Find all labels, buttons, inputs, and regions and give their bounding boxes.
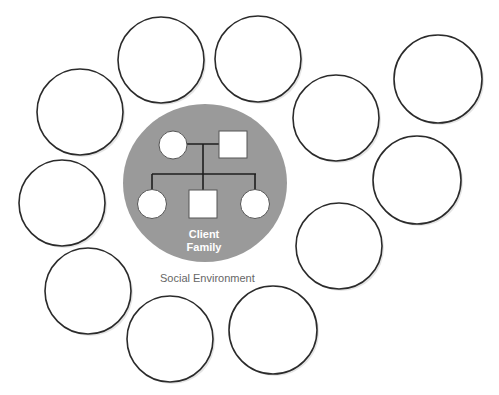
client-family: Client Family	[123, 104, 287, 262]
social-environment-label: Social Environment	[160, 272, 255, 284]
outer-circle-4	[37, 69, 125, 157]
outer-circle-9	[45, 248, 133, 336]
outer-circle-11	[127, 296, 215, 384]
daughter-circle-icon	[138, 190, 167, 219]
outer-circle-5	[293, 75, 381, 163]
outer-circle-10	[229, 286, 319, 376]
client-label: Client	[189, 228, 220, 240]
outer-circle-1	[118, 17, 206, 105]
son-square-icon	[189, 190, 217, 218]
family-label: Family	[187, 241, 223, 253]
father-square-icon	[219, 131, 247, 158]
outer-circle-7	[19, 160, 107, 248]
ecomap-diagram: Client Family Social Environment	[0, 0, 499, 395]
outer-circle-8	[296, 203, 384, 291]
daughter-circle-icon-2	[241, 190, 270, 219]
outer-circle-2	[215, 16, 303, 104]
outer-circle-3	[394, 35, 484, 125]
mother-circle-icon	[159, 131, 187, 159]
outer-circle-6	[373, 136, 463, 226]
